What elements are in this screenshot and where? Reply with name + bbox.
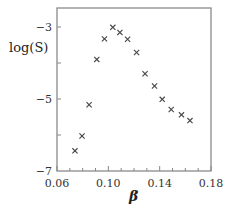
y-tick-label: −5	[36, 93, 52, 106]
y-tick-label: −7	[36, 165, 52, 178]
x-marker-point	[72, 148, 77, 153]
x-marker-point	[169, 107, 174, 112]
y-tick-label: −3	[36, 21, 52, 34]
x-tick-label: 0.18	[199, 177, 224, 190]
data-points	[72, 25, 192, 154]
y-axis-label: log(S)	[9, 40, 48, 55]
x-marker-point	[152, 83, 157, 88]
x-tick-label: 0.10	[96, 177, 121, 190]
x-axis-ticks	[57, 166, 211, 171]
x-marker-point	[160, 97, 165, 102]
x-marker-point	[142, 71, 147, 76]
x-tick-label: 0.14	[147, 177, 172, 190]
x-marker-point	[125, 37, 130, 42]
x-marker-point	[94, 57, 99, 62]
x-marker-point	[102, 36, 107, 41]
scatter-chart: 0.060.100.140.18 −3−5−7 log(S) β	[0, 0, 231, 207]
x-marker-point	[79, 133, 84, 138]
plot-frame	[57, 8, 211, 171]
x-marker-point	[187, 118, 192, 123]
x-tick-label: 0.06	[45, 177, 70, 190]
x-axis-label: β	[128, 188, 139, 204]
x-marker-point	[179, 112, 184, 117]
x-marker-point	[117, 30, 122, 35]
x-marker-point	[110, 25, 115, 30]
x-marker-point	[86, 102, 91, 107]
x-marker-point	[134, 50, 139, 55]
